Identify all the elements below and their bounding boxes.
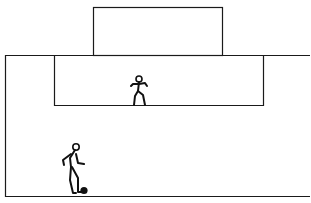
penalty-area	[55, 56, 264, 106]
soccer-diagram	[0, 0, 310, 203]
attacker-figure	[63, 144, 84, 193]
pitch-boundary	[6, 56, 311, 197]
goal	[94, 8, 223, 56]
goalkeeper-figure	[131, 76, 147, 105]
ball	[80, 187, 87, 194]
